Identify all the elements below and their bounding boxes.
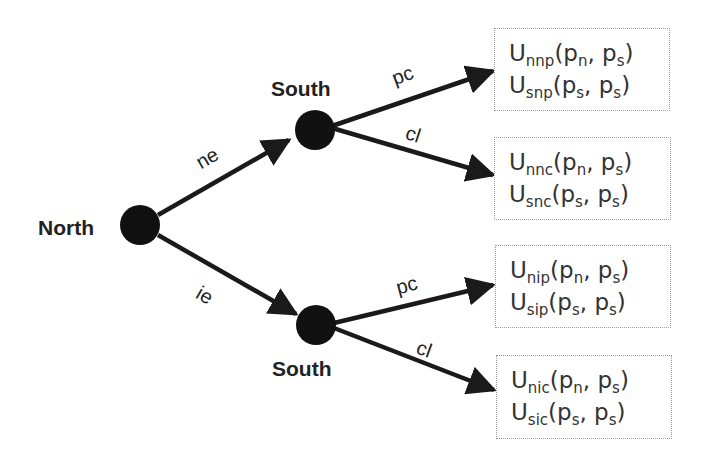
payoff-box-ie-cl: Unic(pn, ps) Usic(ps, ps) [496, 355, 672, 439]
payoff-south: Usic(ps, ps) [511, 396, 671, 428]
payoff-box-ne-cl: Unnc(pn, ps) Usnc(ps, ps) [494, 137, 671, 220]
payoff-box-ne-pc: Unnp(pn, ps) Usnp(ps, ps) [494, 28, 670, 111]
node-south-bottom-dot [296, 305, 336, 345]
node-label-south-bottom: South [272, 358, 331, 379]
payoff-north: Unnp(pn, ps) [509, 37, 669, 69]
payoff-south: Usip(ps, ps) [510, 286, 670, 318]
edge-bottom-cl-arrow [334, 328, 494, 390]
payoff-north: Unic(pn, ps) [511, 364, 671, 396]
edge-ie-arrow [158, 235, 296, 314]
payoff-south: Usnc(ps, ps) [509, 178, 670, 210]
payoff-north: Unip(pn, ps) [510, 254, 670, 286]
node-south-top-dot [295, 110, 335, 150]
node-label-north: North [38, 217, 94, 238]
edge-ne-arrow [158, 140, 289, 215]
payoff-south: Usnp(ps, ps) [509, 69, 669, 101]
node-label-south-top: South [271, 78, 330, 99]
game-tree-diagram: North South South ne ie pc cl pc cl Unnp… [0, 0, 709, 463]
node-north-dot [120, 205, 160, 245]
payoff-north: Unnc(pn, ps) [509, 146, 670, 178]
payoff-box-ie-pc: Unip(pn, ps) Usip(ps, ps) [495, 245, 671, 328]
